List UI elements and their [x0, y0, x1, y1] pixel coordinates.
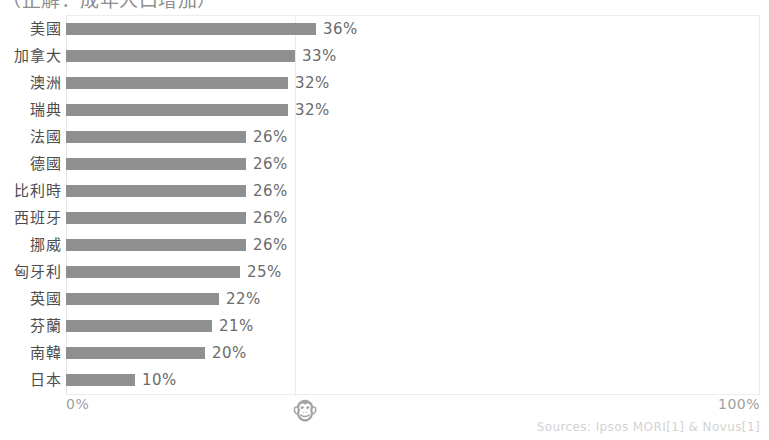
bar-value-label: 25% — [247, 259, 282, 286]
bar-value-label: 26% — [253, 151, 288, 178]
category-label: 德國 — [0, 151, 62, 178]
bar-track: 20% — [66, 340, 760, 367]
bar — [66, 293, 219, 305]
source-note: Sources: Ipsos MORI[1] & Novus[1] — [537, 420, 760, 434]
monkey-face-icon: 🐵 — [288, 398, 322, 426]
chart-caption: （正解：成年人口增加） — [2, 0, 217, 11]
bar-track: 26% — [66, 178, 760, 205]
bar — [66, 131, 246, 143]
chart-page: （正解：成年人口增加） 美國36%加拿大33%澳洲32%瑞典32%法國26%德國… — [0, 0, 769, 440]
category-label: 比利時 — [0, 178, 62, 205]
bar — [66, 104, 288, 116]
axis-tick-min: 0% — [66, 396, 89, 412]
category-label: 南韓 — [0, 340, 62, 367]
bar-row: 芬蘭21% — [0, 313, 769, 340]
bar-track: 26% — [66, 151, 760, 178]
bar-row: 法國26% — [0, 124, 769, 151]
x-axis: 0% 100% — [0, 396, 769, 422]
category-label: 瑞典 — [0, 97, 62, 124]
bar — [66, 266, 240, 278]
bar — [66, 77, 288, 89]
category-label: 西班牙 — [0, 205, 62, 232]
bar-row: 日本10% — [0, 367, 769, 394]
bar-track: 26% — [66, 232, 760, 259]
bar-row: 西班牙26% — [0, 205, 769, 232]
bar-value-label: 33% — [302, 43, 337, 70]
bar-row: 南韓20% — [0, 340, 769, 367]
bar-track: 21% — [66, 313, 760, 340]
bar — [66, 374, 135, 386]
category-label: 美國 — [0, 16, 62, 43]
bar-row: 澳洲32% — [0, 70, 769, 97]
bar-track: 36% — [66, 16, 760, 43]
bar-row: 比利時26% — [0, 178, 769, 205]
bar-rows-container: 美國36%加拿大33%澳洲32%瑞典32%法國26%德國26%比利時26%西班牙… — [0, 16, 769, 394]
bar-value-label: 26% — [253, 178, 288, 205]
bar — [66, 347, 205, 359]
category-label: 挪威 — [0, 232, 62, 259]
bar — [66, 185, 246, 197]
bar-value-label: 20% — [212, 340, 247, 367]
bar-row: 英國22% — [0, 286, 769, 313]
bar-value-label: 26% — [253, 232, 288, 259]
bar-track: 26% — [66, 124, 760, 151]
category-label: 法國 — [0, 124, 62, 151]
bar-row: 美國36% — [0, 16, 769, 43]
bar — [66, 239, 246, 251]
bar — [66, 23, 316, 35]
category-label: 英國 — [0, 286, 62, 313]
bar-row: 瑞典32% — [0, 97, 769, 124]
bar-row: 德國26% — [0, 151, 769, 178]
caption-clip: （正解：成年人口增加） — [0, 0, 420, 11]
bar-track: 25% — [66, 259, 760, 286]
category-label: 芬蘭 — [0, 313, 62, 340]
bar — [66, 50, 295, 62]
bar-row: 匈牙利25% — [0, 259, 769, 286]
category-label: 澳洲 — [0, 70, 62, 97]
bar-track: 22% — [66, 286, 760, 313]
bar-track: 32% — [66, 97, 760, 124]
category-label: 加拿大 — [0, 43, 62, 70]
bar-track: 33% — [66, 43, 760, 70]
bar-track: 10% — [66, 367, 760, 394]
bar-value-label: 26% — [253, 205, 288, 232]
bar-row: 挪威26% — [0, 232, 769, 259]
bar — [66, 158, 246, 170]
bar-value-label: 32% — [295, 70, 330, 97]
axis-tick-max: 100% — [718, 396, 760, 412]
bar-row: 加拿大33% — [0, 43, 769, 70]
category-label: 匈牙利 — [0, 259, 62, 286]
bar-value-label: 22% — [226, 286, 261, 313]
bar-value-label: 21% — [219, 313, 254, 340]
bar-value-label: 32% — [295, 97, 330, 124]
bar-track: 32% — [66, 70, 760, 97]
bar-value-label: 10% — [142, 367, 177, 394]
category-label: 日本 — [0, 367, 62, 394]
bar — [66, 212, 246, 224]
bar-value-label: 26% — [253, 124, 288, 151]
bar-track: 26% — [66, 205, 760, 232]
bar-value-label: 36% — [323, 16, 358, 43]
bar — [66, 320, 212, 332]
